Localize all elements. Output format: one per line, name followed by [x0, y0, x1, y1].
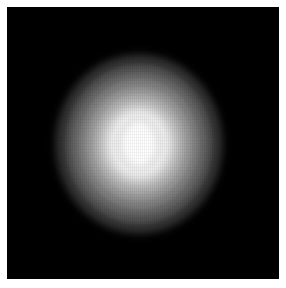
- figure-root: [0, 0, 286, 288]
- contour-band-core-saturated: [123, 123, 155, 165]
- image-canvas: [7, 7, 279, 279]
